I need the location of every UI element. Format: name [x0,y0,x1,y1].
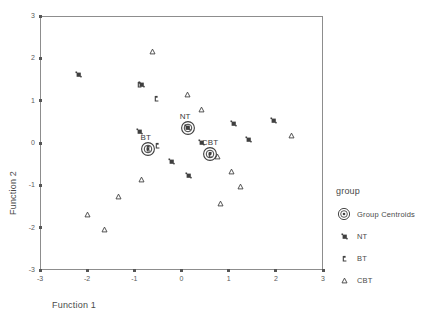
data-point-nt [184,171,193,180]
x-axis-tick [227,269,230,272]
x-axis-tick-label: 3 [315,275,331,283]
data-point-cbt [216,199,225,208]
legend-items: Group CentroidsNTBTCBT [336,205,426,289]
legend-item-label: Group Centroids [357,210,415,219]
y-axis-tick [39,226,42,229]
data-point-nt [74,70,83,79]
y-axis-tick-label: 1 [21,97,35,105]
y-axis-tick-label: 2 [21,54,35,62]
legend-item-label: CBT [357,276,373,285]
triangle-icon [336,272,352,288]
data-point-nt [269,116,278,125]
data-point-cbt [83,210,92,219]
x-axis-tick-label: 2 [268,275,284,283]
data-point-nt [229,119,238,128]
x-axis-title: Function 1 [52,300,96,310]
centroid-label-nt: NT [180,112,191,121]
data-point-nt [244,135,253,144]
y-axis-tick-label: 0 [21,139,35,147]
legend-item-nt[interactable]: NT [336,227,426,245]
flag-icon [336,250,352,266]
x-axis-tick-label: -1 [126,275,142,283]
data-point-bt [152,94,161,103]
legend-item-group-centroids[interactable]: Group Centroids [336,205,426,223]
centroid-label-bt: BT [140,133,151,142]
legend-item-label: BT [357,254,367,263]
y-axis-tick-label: -1 [21,181,35,189]
data-point-nt [137,80,146,89]
data-point-bt [135,80,144,89]
x-axis-tick [274,269,277,272]
y-axis-tick [39,184,42,187]
group-centroid-nt [180,120,196,136]
y-axis-tick [39,269,42,272]
data-point-cbt [227,167,236,176]
x-axis-tick-label: -2 [79,275,95,283]
square-icon [336,228,352,244]
data-point-cbt [148,47,157,56]
legend-title: group [336,186,426,196]
y-axis-tick-label: -3 [21,266,35,274]
plot-area: -3-2-10123-3-2-10123NTBTCBT [40,16,323,270]
group-centroid-bt [140,141,156,157]
y-axis-tick-label: -2 [21,224,35,232]
legend-item-label: NT [357,232,367,241]
data-point-cbt [100,225,109,234]
y-axis-tick [39,15,42,18]
legend-item-bt[interactable]: BT [336,249,426,267]
data-point-cbt [183,90,192,99]
data-point-cbt [287,131,296,140]
y-axis-title: Function 2 [8,158,18,228]
x-axis-tick [322,269,325,272]
legend: group Group CentroidsNTBTCBT [336,186,426,293]
data-point-cbt [236,182,245,191]
y-axis-tick-label: 3 [21,12,35,20]
data-point-cbt [114,192,123,201]
centroid-label-cbt: CBT [202,138,219,147]
y-axis-tick [39,57,42,60]
x-axis-tick-label: -3 [32,275,48,283]
centroid-icon [336,206,352,222]
group-centroid-cbt [202,146,218,162]
x-axis-tick-label: 1 [221,275,237,283]
data-point-cbt [137,175,146,184]
x-axis-tick [133,269,136,272]
y-axis-tick [39,99,42,102]
y-axis-tick [39,142,42,145]
canonical-discriminant-plot: -3-2-10123-3-2-10123NTBTCBT Function 1 F… [0,0,426,331]
data-point-nt [167,157,176,166]
x-axis-tick-label: 0 [174,275,190,283]
x-axis-tick [86,269,89,272]
legend-item-cbt[interactable]: CBT [336,271,426,289]
x-axis-tick [180,269,183,272]
data-point-cbt [197,105,206,114]
